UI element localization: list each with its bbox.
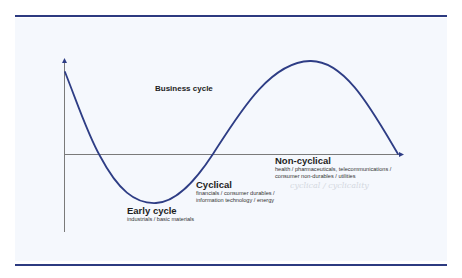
phase-name: Cyclical [196,180,275,190]
phase-sectors: industrials / basic materials [127,216,194,223]
phase-non-cyclical: Non-cyclical health / pharmaceuticals, t… [275,156,391,179]
business-cycle-diagram [0,0,462,278]
phase-early-cycle: Early cycle industrials / basic material… [127,206,194,223]
bottom-rule [15,264,447,266]
phase-cyclical: Cyclical financials / consumer durables … [196,180,275,203]
handwritten-note: cyclical / cyclicality [290,181,369,190]
phase-sectors: consumer non-durables / utilities [275,173,391,180]
phase-sectors: information technology / energy [196,197,275,204]
phase-sectors: financials / consumer durables / [196,190,275,197]
diagram-title: Business cycle [155,84,213,93]
phase-sectors: health / pharmaceuticals, telecommunicat… [275,166,391,173]
phase-name: Non-cyclical [275,156,391,166]
phase-name: Early cycle [127,206,194,216]
